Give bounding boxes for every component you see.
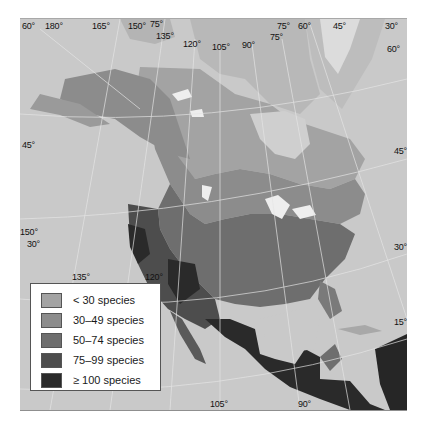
legend-item: 30–49 species: [41, 311, 144, 329]
legend-label: ≥ 100 species: [73, 374, 141, 386]
legend-item: 50–74 species: [41, 331, 144, 349]
lat-label: 75°: [150, 19, 163, 29]
lon-label: 90°: [242, 40, 255, 50]
legend-swatch: [41, 313, 62, 328]
lon-label: 150°: [128, 21, 146, 31]
lon-label: 120°: [183, 39, 201, 49]
legend-swatch: [41, 353, 62, 368]
lon-label: 105°: [212, 42, 230, 52]
map-legend: < 30 species 30–49 species 50–74 species…: [30, 283, 161, 391]
legend-swatch: [41, 373, 62, 388]
lon-label: 150°: [20, 227, 38, 237]
lat-label: 60°: [387, 44, 400, 54]
legend-label: 30–49 species: [73, 314, 144, 326]
legend-label: 50–74 species: [73, 334, 144, 346]
lon-label: 90°: [298, 399, 311, 409]
lon-label: 45°: [333, 21, 346, 31]
legend-swatch: [41, 293, 62, 308]
lon-label: 165°: [92, 21, 110, 31]
lat-label: 45°: [22, 140, 35, 150]
lon-label: 120°: [145, 272, 163, 282]
lat-label: 75°: [270, 32, 283, 42]
lat-label: 30°: [394, 242, 407, 252]
lat-label: 30°: [27, 239, 40, 249]
lon-label: 135°: [72, 272, 90, 282]
legend-item: ≥ 100 species: [41, 371, 141, 389]
legend-item: < 30 species: [41, 291, 135, 309]
lon-label: 75°: [277, 21, 290, 31]
lon-label: 105°: [210, 399, 228, 409]
legend-label: 75–99 species: [73, 354, 144, 366]
lat-label: 15°: [394, 317, 407, 327]
legend-label: < 30 species: [73, 294, 135, 306]
lat-label: 45°: [394, 146, 407, 156]
legend-swatch: [41, 333, 62, 348]
lon-label: 60°: [298, 21, 311, 31]
lon-label: 60°: [22, 21, 35, 31]
lon-label: 30°: [385, 21, 398, 31]
lon-label: 180°: [45, 21, 63, 31]
lon-label: 135°: [156, 31, 174, 41]
legend-item: 75–99 species: [41, 351, 144, 369]
